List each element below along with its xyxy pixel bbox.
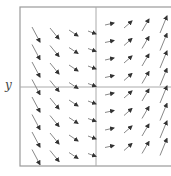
direction-field-plot xyxy=(0,0,171,176)
field-arrow xyxy=(105,76,114,78)
field-arrow xyxy=(32,97,40,112)
field-arrow xyxy=(88,31,96,34)
field-arrow xyxy=(32,45,40,60)
field-arrow xyxy=(160,121,167,138)
field-arrow xyxy=(32,150,40,165)
field-arrow xyxy=(69,83,78,89)
field-arrow xyxy=(105,128,114,130)
field-arrow xyxy=(124,109,132,116)
field-arrow xyxy=(105,41,114,43)
field-arrow xyxy=(69,118,78,124)
field-arrow xyxy=(88,49,96,52)
field-arrow xyxy=(50,81,59,92)
field-arrow xyxy=(142,72,149,84)
field-arrow xyxy=(69,65,78,71)
field-arrow xyxy=(69,48,78,54)
field-arrow xyxy=(124,56,132,63)
field-arrow xyxy=(88,84,96,87)
field-arrow xyxy=(88,66,96,69)
field-arrow xyxy=(32,27,40,42)
arrow-field xyxy=(32,16,167,165)
field-arrow xyxy=(69,100,78,106)
field-arrow xyxy=(142,142,149,154)
field-arrow xyxy=(142,107,149,119)
field-arrow xyxy=(50,63,59,74)
field-arrow xyxy=(105,23,114,25)
field-arrow xyxy=(50,151,59,162)
field-arrow xyxy=(32,132,40,147)
field-arrow xyxy=(32,62,40,77)
field-arrow xyxy=(88,119,96,122)
field-arrow xyxy=(88,101,96,104)
field-arrow xyxy=(32,115,40,130)
field-arrow xyxy=(50,133,59,144)
field-arrow xyxy=(160,51,167,68)
field-arrow xyxy=(124,74,132,81)
field-arrow xyxy=(105,146,114,148)
field-arrow xyxy=(160,139,167,156)
field-arrow xyxy=(160,16,167,33)
field-arrow xyxy=(105,93,114,95)
field-arrow xyxy=(50,46,59,57)
field-arrow xyxy=(142,19,149,31)
field-arrow xyxy=(124,39,132,46)
field-arrow xyxy=(160,104,167,121)
field-arrow xyxy=(69,30,78,36)
field-arrow xyxy=(124,21,132,28)
field-arrow xyxy=(160,86,167,103)
field-arrow xyxy=(142,37,149,49)
field-arrow xyxy=(142,54,149,66)
field-arrow xyxy=(88,136,96,139)
field-arrow xyxy=(124,126,132,133)
field-arrow xyxy=(69,153,78,159)
field-arrow xyxy=(69,135,78,141)
field-arrow xyxy=(105,58,114,60)
field-arrow xyxy=(142,124,149,136)
field-arrow xyxy=(50,98,59,109)
field-arrow xyxy=(160,69,167,86)
field-arrow xyxy=(50,28,59,39)
y-axis-label: y xyxy=(5,78,12,92)
field-arrow xyxy=(124,91,132,98)
field-arrow xyxy=(160,34,167,51)
field-arrow xyxy=(142,89,149,101)
field-arrow xyxy=(88,154,96,157)
field-arrow xyxy=(50,116,59,127)
field-arrow xyxy=(124,144,132,151)
field-arrow xyxy=(105,111,114,113)
